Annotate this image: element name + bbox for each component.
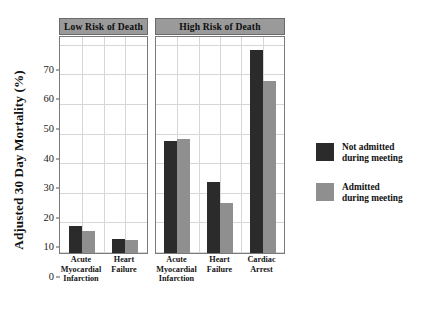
x-axis-label-line: Failure [97, 265, 151, 275]
panel-low-risk: Low Risk of Death AcuteMyocardialInfarct… [59, 18, 148, 254]
gridline-vertical [82, 37, 83, 253]
panel-low-risk-title: Low Risk of Death [59, 18, 148, 35]
plot-area-high-risk [155, 36, 285, 254]
chart-legend: Not admittedduring meetingAdmittedduring… [316, 142, 421, 222]
legend-label: Admittedduring meeting [342, 182, 403, 204]
legend-label: Not admittedduring meeting [342, 142, 403, 164]
bar [125, 240, 138, 253]
legend-label-line2: during meeting [342, 193, 403, 204]
x-axis-label-line: Arrest [235, 265, 288, 275]
x-axis-label-line: Heart [97, 255, 151, 265]
y-tick-label: 60 [44, 94, 55, 104]
panel-high-risk: High Risk of Death AcuteMyocardialInfarc… [155, 18, 285, 254]
legend-item: Admittedduring meeting [316, 182, 421, 204]
chart-figure: Adjusted 30 Day Mortality (%) 0102030405… [0, 0, 423, 322]
panel-high-risk-title: High Risk of Death [155, 18, 285, 35]
x-axis-label-line: Infarction [150, 274, 203, 284]
y-tick-label: 20 [44, 213, 55, 223]
gridline-vertical [104, 37, 105, 253]
y-tick-label: 30 [44, 183, 55, 193]
y-tick-label: 40 [44, 154, 55, 164]
x-axis-label: CardiacArrest [235, 255, 288, 274]
bar [82, 231, 95, 253]
gridline-vertical [125, 37, 126, 253]
y-tick-label: 70 [44, 65, 55, 75]
x-labels-high-risk: AcuteMyocardialInfarctionHeartFailureCar… [155, 255, 285, 305]
gridline-vertical [199, 37, 200, 253]
legend-swatch [316, 143, 334, 161]
bar [220, 203, 233, 253]
bar [263, 81, 276, 253]
x-axis-label-line: Infarction [54, 274, 108, 284]
bar [112, 239, 125, 253]
bar [69, 226, 82, 253]
plot-area-low-risk [59, 36, 148, 254]
legend-item: Not admittedduring meeting [316, 142, 421, 164]
x-labels-low-risk: AcuteMyocardialInfarctionHeartFailure [59, 255, 148, 305]
legend-swatch [316, 183, 334, 201]
legend-label-line2: during meeting [342, 153, 403, 164]
bar [164, 141, 177, 253]
y-tick-label: 50 [44, 124, 55, 134]
bar [207, 182, 220, 253]
bar [250, 50, 263, 253]
bar [177, 139, 190, 254]
y-axis-title: Adjusted 30 Day Mortality (%) [11, 55, 27, 265]
legend-label-line1: Admitted [342, 182, 403, 193]
y-tick-label: 10 [44, 242, 55, 252]
y-axis-ticks: 010203040506070 [28, 50, 60, 278]
x-axis-label: HeartFailure [97, 255, 151, 274]
gridline-vertical [241, 37, 242, 253]
legend-label-line1: Not admitted [342, 142, 403, 153]
x-axis-label-line: Cardiac [235, 255, 288, 265]
